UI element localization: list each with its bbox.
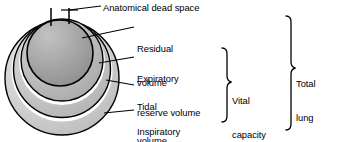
- vital-capacity-bracket: [222, 48, 232, 122]
- label-total-lung-capacity-line2: lung: [296, 112, 330, 123]
- label-vital-capacity-line1: Vital: [232, 95, 266, 106]
- leader-anatomical-dead-space: [69, 6, 101, 10]
- label-anatomical-dead-space: Anatomical dead space: [103, 2, 199, 13]
- label-vital-capacity: Vital capacity: [232, 73, 266, 142]
- lung-volumes-diagram: Anatomical dead space Residual volume Ex…: [0, 0, 344, 142]
- label-total-lung-capacity-line1: Total: [296, 78, 330, 89]
- label-inspiratory-reserve-volume-line1: Inspiratory: [137, 126, 200, 137]
- label-inspiratory-reserve-volume: Inspiratory reserve volume: [137, 104, 200, 142]
- label-total-lung-capacity: Total lung capacity: [296, 56, 330, 142]
- residual-volume-shape: [27, 20, 93, 86]
- total-lung-capacity-bracket: [286, 16, 296, 130]
- label-vital-capacity-line2: capacity: [232, 129, 266, 140]
